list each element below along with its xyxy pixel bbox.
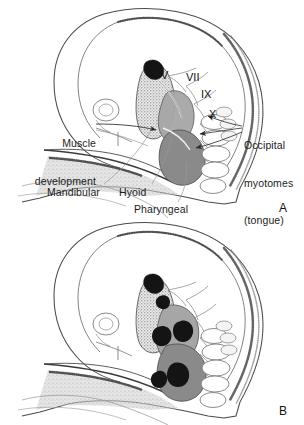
orbit-region — [93, 99, 119, 132]
label-cranial-nerve-x: X — [209, 109, 216, 120]
muscle-mass-3 — [167, 363, 189, 387]
anatomy-figure: Muscle development Occipital myotomes (t… — [0, 0, 304, 425]
label-cranial-nerve-v: V — [161, 70, 168, 81]
pharyngeal-arches-b — [136, 274, 206, 401]
label-cranial-nerve-ix: IX — [201, 89, 211, 100]
orbit-region-b — [93, 313, 119, 346]
panel-letter-b: B — [279, 405, 287, 417]
label-pharyngeal: Pharyngeal — [134, 203, 188, 216]
panel-b-illustration — [0, 222, 304, 425]
label-hyoid: Hyoid — [119, 186, 146, 199]
label-occipital-line-1: Occipital — [244, 139, 304, 152]
panel-letter-a: A — [279, 202, 287, 214]
arch-3-pharyngeal — [159, 130, 205, 185]
panel-b: B — [0, 222, 304, 425]
label-muscle-development-line-1: Muscle — [12, 137, 96, 150]
panel-a: Muscle development Occipital myotomes (t… — [0, 0, 304, 220]
label-cranial-nerve-vii: VII — [186, 72, 199, 83]
label-occipital-line-2: myotomes — [244, 177, 304, 190]
label-mandibular: Mandibular — [47, 186, 100, 199]
